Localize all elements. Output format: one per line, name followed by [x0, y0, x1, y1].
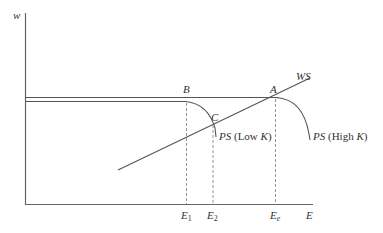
x-axis-label: E — [306, 210, 313, 221]
ps-low-k: K — [261, 130, 268, 142]
ps-low-k-label: PS (Low K) — [219, 131, 272, 142]
e2-sub: 2 — [214, 214, 218, 223]
point-c-label: C — [211, 112, 218, 123]
ps-high-k-label: PS (High K) — [313, 131, 367, 142]
ps-low-suffix: (Low — [234, 130, 261, 142]
ee-base: E — [270, 209, 277, 221]
ps-high-suffix: (High — [328, 130, 356, 142]
ws-line — [118, 78, 310, 170]
point-a-label: A — [270, 84, 277, 95]
e1-sub: 1 — [188, 214, 192, 223]
ps-high-prefix: PS — [313, 130, 325, 142]
e2-base: E — [207, 209, 214, 221]
e1-tick-label: E1 — [181, 210, 192, 223]
wage-setting-price-setting-diagram: w E B A C WS PS (Low K) PS (High K) E1 E… — [0, 0, 383, 233]
ps-high-k-curve — [276, 98, 310, 141]
e2-tick-label: E2 — [207, 210, 218, 223]
ps-high-close: ) — [364, 130, 368, 142]
ps-low-prefix: PS — [219, 130, 231, 142]
point-b-label: B — [183, 84, 190, 95]
ws-label: WS — [296, 71, 311, 82]
ps-high-k: K — [356, 130, 363, 142]
ee-tick-label: Ee — [270, 210, 280, 223]
y-axis-label: w — [13, 10, 20, 21]
ee-sub: e — [277, 214, 281, 223]
ps-low-close: ) — [268, 130, 272, 142]
diagram-canvas — [0, 0, 383, 233]
e1-base: E — [181, 209, 188, 221]
